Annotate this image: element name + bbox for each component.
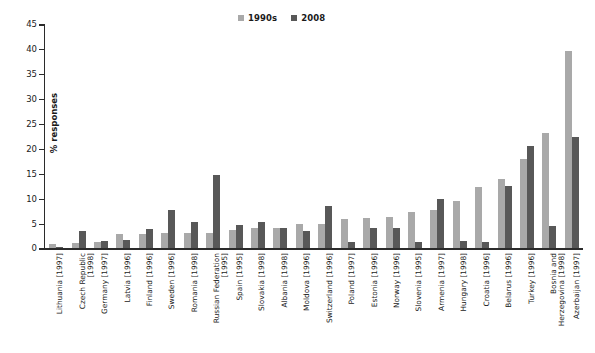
x-category-label: Germany [1997] — [101, 253, 109, 314]
chart-legend: 1990s 2008 — [238, 14, 325, 23]
x-category-label: Croatia [1996] — [483, 253, 491, 307]
bar-2008 — [146, 229, 153, 248]
y-tick-label: 5 — [32, 219, 37, 228]
y-tick-mark — [39, 199, 44, 200]
bar-group — [561, 24, 583, 248]
legend-label-2008: 2008 — [301, 14, 325, 23]
x-category: Poland [1997] — [337, 253, 359, 351]
bar-1990s — [251, 228, 258, 248]
x-category: Norway [1996] — [382, 253, 404, 351]
bar-2008 — [460, 241, 467, 248]
bar-1990s — [430, 210, 437, 249]
bar-group — [292, 24, 314, 248]
bar-2008 — [348, 242, 355, 248]
bar-1990s — [116, 234, 123, 248]
x-category-label: Estonia [1996] — [371, 253, 379, 307]
x-category: Moldova [1996] — [292, 253, 314, 351]
bar-2008 — [168, 210, 175, 248]
bar-1990s — [49, 244, 56, 248]
x-category: Sweden [1996] — [157, 253, 179, 351]
x-category: Bosnia and Herzegovina [1998] — [539, 253, 561, 351]
bar-2008 — [280, 228, 287, 248]
y-tick-label: 40 — [26, 45, 37, 54]
bar-1990s — [161, 233, 168, 248]
x-category: Russian Federation [1995] — [202, 253, 224, 351]
bar-group — [224, 24, 246, 248]
x-category-label: Norway [1996] — [393, 253, 401, 308]
bar-1990s — [475, 187, 482, 249]
x-category-label: Turkey [1996] — [528, 253, 536, 304]
y-tick-mark — [39, 224, 44, 225]
bar-2008 — [236, 225, 243, 248]
x-category-label: Romania [1998] — [191, 253, 199, 312]
bar-group — [449, 24, 471, 248]
bar-group — [202, 24, 224, 248]
x-category: Turkey [1996] — [517, 253, 539, 351]
x-category: Latvia [1996] — [112, 253, 134, 351]
legend-item-1990s: 1990s — [238, 14, 277, 23]
bar-group — [135, 24, 157, 248]
x-category-label: Slovakia [1998] — [258, 253, 266, 311]
bar-1990s — [408, 212, 415, 248]
bar-2008 — [527, 146, 534, 248]
x-category: Czech Republic [1998] — [67, 253, 89, 351]
x-category-label: Belarus [1996] — [505, 253, 513, 308]
x-category-label: Lithuania [1997] — [56, 253, 64, 314]
bar-1990s — [206, 233, 213, 248]
x-axis-category-labels: Lithuania [1997]Czech Republic [1998]Ger… — [45, 253, 584, 351]
x-axis-line — [44, 248, 583, 250]
bar-2008 — [79, 231, 86, 248]
bar-2008 — [303, 231, 310, 248]
bar-1990s — [296, 224, 303, 248]
bar-2008 — [258, 222, 265, 248]
bar-1990s — [318, 224, 325, 249]
bar-group — [471, 24, 493, 248]
bar-1990s — [565, 51, 572, 249]
y-tick-mark — [39, 99, 44, 100]
x-category-label: Spain [1995] — [236, 253, 244, 301]
bar-group — [538, 24, 560, 248]
bar-1990s — [273, 228, 280, 248]
bar-2008 — [482, 242, 489, 248]
bar-1990s — [386, 217, 393, 249]
bar-2008 — [370, 228, 377, 249]
bar-group — [247, 24, 269, 248]
bar-2008 — [101, 241, 108, 248]
bar-group — [314, 24, 336, 248]
y-tick-mark — [39, 74, 44, 75]
bar-2008 — [415, 242, 422, 248]
plot-area: 051015202530354045 — [44, 24, 583, 250]
x-category-label: Hungary [1998] — [460, 253, 468, 311]
bar-group — [90, 24, 112, 248]
y-tick-label: 35 — [26, 70, 37, 79]
bar-1990s — [341, 219, 348, 249]
y-tick-mark — [39, 174, 44, 175]
y-tick-label: 15 — [26, 169, 37, 178]
bar-2008 — [191, 222, 198, 249]
x-category-label: Armenia [1997] — [438, 253, 446, 311]
bar-1990s — [498, 179, 505, 249]
bar-2008 — [213, 175, 220, 248]
y-tick-label: 30 — [26, 95, 37, 104]
y-tick-mark — [39, 24, 44, 25]
bar-group — [157, 24, 179, 248]
y-tick-mark — [39, 124, 44, 125]
x-category: Lithuania [1997] — [45, 253, 67, 351]
bar-2008 — [505, 186, 512, 248]
bar-chart: 1990s 2008 % responses 05101520253035404… — [0, 0, 595, 353]
bar-group — [404, 24, 426, 248]
x-category: Azerbaijan [1997] — [561, 253, 583, 351]
bar-2008 — [56, 247, 63, 248]
bar-1990s — [72, 243, 79, 248]
bar-1990s — [229, 230, 236, 248]
legend-swatch-1990s — [238, 15, 244, 21]
x-category-label: Switzerland [1996] — [326, 253, 334, 323]
bar-groups — [45, 24, 583, 248]
x-category: Croatia [1996] — [472, 253, 494, 351]
x-category: Spain [1995] — [225, 253, 247, 351]
x-category: Finland [1996] — [135, 253, 157, 351]
legend-swatch-2008 — [291, 15, 297, 21]
legend-item-2008: 2008 — [291, 14, 325, 23]
x-category-label: Moldova [1996] — [303, 253, 311, 311]
x-category: Slovakia [1998] — [247, 253, 269, 351]
